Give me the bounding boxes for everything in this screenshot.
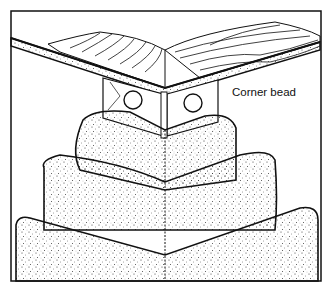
corner-bead-label: Corner bead xyxy=(232,86,296,98)
corner-bead-illustration xyxy=(0,0,331,294)
diagram: Corner bead xyxy=(0,0,331,294)
